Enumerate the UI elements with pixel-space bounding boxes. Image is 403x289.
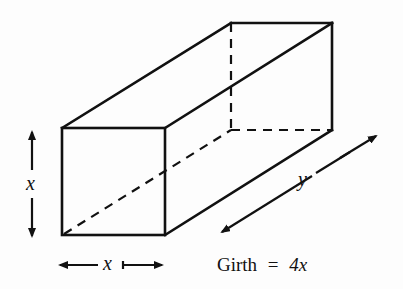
box-drawing bbox=[0, 0, 403, 289]
girth-text: Girth bbox=[217, 254, 257, 275]
equals-sign: = bbox=[268, 254, 279, 275]
hidden-bottom-left-edge bbox=[64, 130, 231, 234]
girth-value: 4x bbox=[289, 254, 307, 275]
height-label: x bbox=[26, 172, 35, 195]
length-arrow-up bbox=[340, 136, 376, 158]
girth-formula: Girth = 4x bbox=[217, 254, 307, 276]
box-diagram: x x y Girth = 4x bbox=[0, 0, 403, 289]
length-label: y bbox=[298, 168, 307, 191]
top-left-edge bbox=[62, 23, 231, 128]
top-right-edge bbox=[165, 23, 332, 128]
width-label: x bbox=[103, 252, 112, 275]
